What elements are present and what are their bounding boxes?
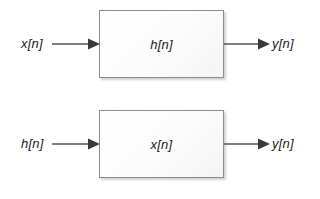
system-block-bottom: x[n]	[99, 110, 224, 178]
output-signal-label: y[n]	[272, 37, 294, 50]
block-diagram-top: x[n] h[n] y[n]	[0, 0, 320, 99]
system-block-label: h[n]	[100, 11, 223, 77]
input-signal-label: h[n]	[21, 137, 43, 150]
arrow-right-icon-output	[224, 36, 270, 52]
arrow-right-icon-input	[52, 136, 100, 152]
figure-block-diagram: x[n] h[n] y[n] h[n] x[n] y[n]	[0, 0, 320, 199]
system-block-label: x[n]	[100, 111, 223, 177]
system-block-top: h[n]	[99, 10, 224, 78]
arrow-right-icon-input	[52, 36, 100, 52]
output-signal-label: y[n]	[272, 137, 294, 150]
input-signal-label: x[n]	[21, 37, 43, 50]
arrow-right-icon-output	[224, 136, 270, 152]
block-diagram-bottom: h[n] x[n] y[n]	[0, 100, 320, 199]
